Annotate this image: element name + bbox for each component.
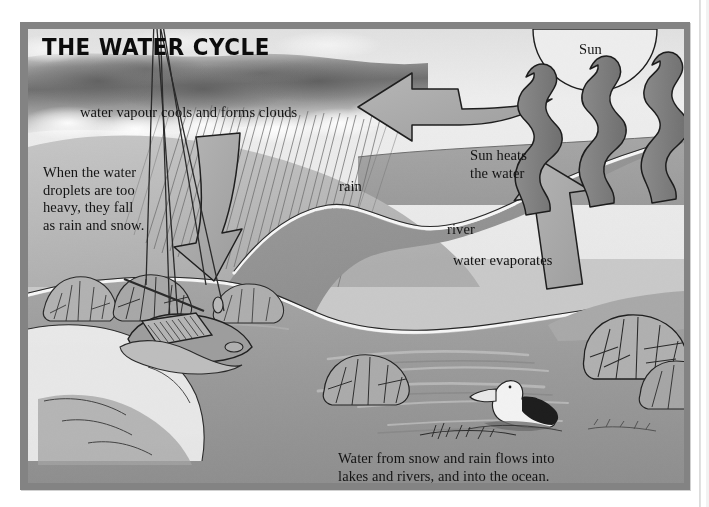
label-water-evaporates: water evaporates bbox=[453, 252, 552, 270]
label-water-vapour: water vapour cools and forms clouds bbox=[80, 104, 297, 122]
label-droplets-fall: When the water droplets are too heavy, t… bbox=[43, 164, 144, 235]
illustration-frame: THE WATER CYCLE water vapour cools and f… bbox=[20, 22, 690, 490]
caption-water-flows: Water from snow and rain flows into lake… bbox=[338, 450, 555, 483]
label-sun: Sun bbox=[579, 41, 602, 59]
water-cycle-illustration: THE WATER CYCLE water vapour cools and f… bbox=[28, 29, 684, 483]
label-rain: rain bbox=[339, 178, 362, 196]
scene-artwork bbox=[28, 29, 684, 483]
label-sun-heats-water: Sun heats the water bbox=[470, 147, 527, 182]
page-title: THE WATER CYCLE bbox=[42, 33, 270, 61]
label-river: river bbox=[447, 221, 475, 239]
page-canvas: THE WATER CYCLE water vapour cools and f… bbox=[0, 0, 709, 507]
page-edge-line bbox=[699, 0, 701, 507]
